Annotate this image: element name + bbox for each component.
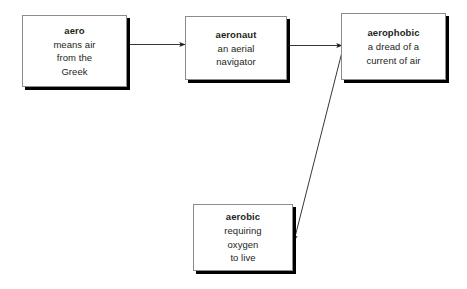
node-aeronaut[interactable]: aeronaut an aerial navigator bbox=[185, 16, 287, 80]
node-aerobic-definition: requiring oxygen to live bbox=[224, 224, 261, 265]
node-aero[interactable]: aero means air from the Greek bbox=[22, 15, 127, 87]
word-family-diagram: aero means air from the Greek aeronaut a… bbox=[0, 0, 467, 289]
node-aeronaut-term: aeronaut bbox=[216, 28, 257, 42]
node-aeronaut-definition: an aerial navigator bbox=[216, 42, 256, 69]
node-aerophobic-definition-line-1: a dread of a bbox=[366, 40, 420, 54]
node-aeronaut-definition-line-2: navigator bbox=[216, 55, 256, 69]
node-aerobic[interactable]: aerobic requiring oxygen to live bbox=[193, 204, 293, 271]
node-aeronaut-definition-line-1: an aerial bbox=[216, 42, 256, 56]
node-aerophobic-definition: a dread of a current of air bbox=[366, 40, 420, 67]
node-aero-definition-line-3: Greek bbox=[53, 65, 95, 79]
node-aerophobic-term: aerophobic bbox=[367, 26, 419, 40]
node-aero-term: aero bbox=[64, 24, 84, 38]
node-aero-definition-line-2: from the bbox=[53, 51, 95, 65]
node-aerophobic-definition-line-2: current of air bbox=[366, 54, 420, 68]
node-aero-definition-line-1: means air bbox=[53, 38, 95, 52]
node-aerobic-term: aerobic bbox=[226, 210, 261, 224]
node-aerobic-definition-line-1: requiring bbox=[224, 224, 261, 238]
connector-aerophobic-to-aerobic bbox=[294, 48, 343, 241]
node-aerophobic[interactable]: aerophobic a dread of a current of air bbox=[341, 13, 446, 80]
node-aerobic-definition-line-2: oxygen bbox=[224, 238, 261, 252]
node-aero-definition: means air from the Greek bbox=[53, 38, 95, 79]
node-aerobic-definition-line-3: to live bbox=[224, 251, 261, 265]
